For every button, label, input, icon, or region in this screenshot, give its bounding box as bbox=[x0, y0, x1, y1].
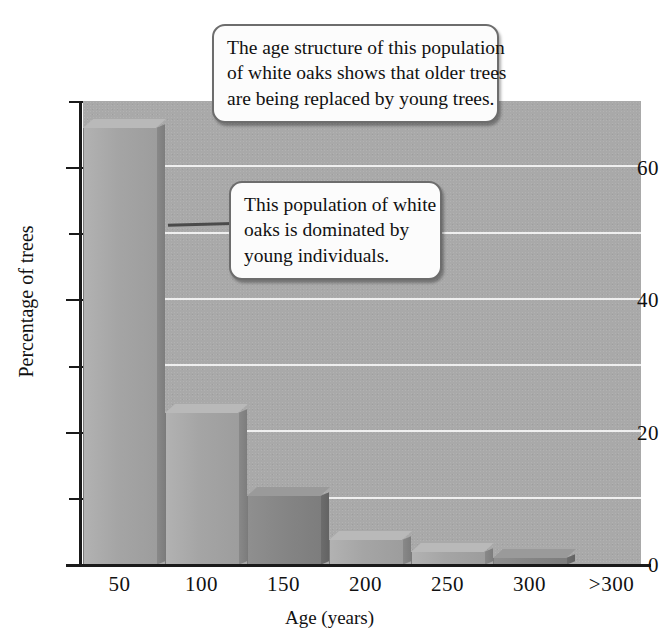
x-tick-label-100: 100 bbox=[165, 572, 238, 597]
bar-100 bbox=[165, 413, 238, 565]
bar-50-side-face bbox=[156, 124, 165, 565]
y-tick-50 bbox=[69, 233, 83, 235]
y-tick-70 bbox=[69, 101, 83, 103]
bar-150-top-face bbox=[247, 487, 330, 496]
bar-150-side-face bbox=[320, 492, 329, 565]
bar-100-top-face bbox=[165, 404, 248, 413]
callout-age-structure-line-3: are being replaced by young trees. bbox=[227, 86, 484, 111]
x-tick-label-250: 250 bbox=[411, 572, 484, 597]
x-tick-label-200: 200 bbox=[329, 572, 402, 597]
y-axis-title: Percentage of trees bbox=[15, 192, 38, 412]
y-tick-20 bbox=[66, 432, 83, 434]
bar-250-side-face bbox=[484, 548, 493, 565]
bar-200-front-face bbox=[329, 540, 403, 565]
y-tick-0 bbox=[66, 564, 83, 566]
age-structure-bar-chart: 0 20 40 60 Percentage of trees 50 100 15… bbox=[0, 0, 659, 640]
gridline-60 bbox=[83, 165, 641, 167]
y-tick-label-60: 60 bbox=[597, 156, 659, 181]
x-axis-title: Age (years) bbox=[0, 607, 659, 629]
y-axis-line bbox=[79, 101, 82, 565]
y-tick-label-40: 40 bbox=[597, 288, 659, 313]
x-tick-label-over300: >300 bbox=[575, 572, 648, 597]
bar-250-top-face bbox=[411, 543, 494, 552]
bar-150 bbox=[247, 496, 320, 565]
callout-dominated-line-2: oaks is dominated by bbox=[244, 217, 427, 242]
bar-200 bbox=[329, 540, 402, 565]
bar-200-side-face bbox=[402, 536, 411, 565]
callout-dominated-line-1: This population of white bbox=[244, 192, 427, 217]
y-tick-40 bbox=[66, 299, 83, 301]
plot-area bbox=[83, 101, 641, 565]
bar-50-top-face bbox=[83, 119, 166, 128]
x-tick-label-300: 300 bbox=[493, 572, 566, 597]
callout-dominated-by-young: This population of white oaks is dominat… bbox=[229, 181, 442, 280]
bar-50-front-face bbox=[83, 128, 157, 565]
x-tick-label-50: 50 bbox=[83, 572, 156, 597]
x-axis-line bbox=[66, 564, 651, 567]
bar-100-front-face bbox=[165, 413, 239, 565]
bar-300-top-face bbox=[493, 549, 576, 558]
callout-age-structure-line-1: The age structure of this population bbox=[227, 35, 484, 60]
y-tick-30 bbox=[69, 366, 83, 368]
callout-age-structure: The age structure of this population of … bbox=[212, 24, 499, 123]
gridline-40 bbox=[83, 298, 641, 300]
bar-50 bbox=[83, 128, 156, 565]
bar-200-top-face bbox=[329, 531, 412, 540]
callout-dominated-line-3: young individuals. bbox=[244, 243, 427, 268]
callout-age-structure-line-2: of white oaks shows that older trees bbox=[227, 60, 484, 85]
bar-100-side-face bbox=[238, 409, 247, 565]
bar-150-front-face bbox=[247, 496, 321, 565]
y-tick-label-20: 20 bbox=[597, 421, 659, 446]
gridline-30 bbox=[83, 364, 641, 366]
y-tick-60 bbox=[66, 167, 83, 169]
x-tick-label-150: 150 bbox=[247, 572, 320, 597]
y-tick-10 bbox=[69, 498, 83, 500]
